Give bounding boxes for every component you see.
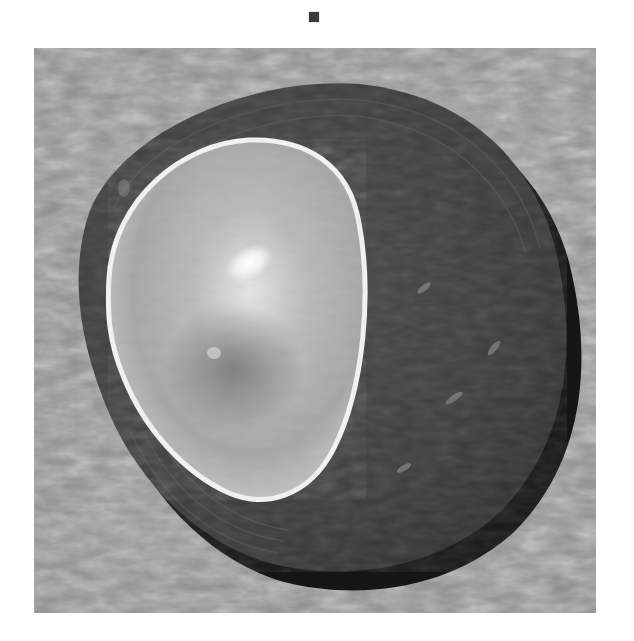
marker-square: [309, 12, 319, 22]
shell-photo: [34, 48, 596, 613]
shell-illustration: [34, 48, 596, 613]
inner-valve-shading: [164, 303, 304, 433]
small-highlight: [207, 347, 221, 359]
